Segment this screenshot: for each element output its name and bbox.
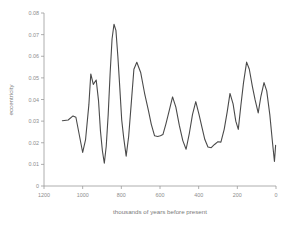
eccentricity-line-chart: 00.010.020.030.040.050.060.070.08 eccent… xyxy=(0,0,294,227)
y-tick-label: 0.08 xyxy=(29,10,40,16)
x-axis-title: thousands of years before present xyxy=(113,208,207,215)
chart-figure: 00.010.020.030.040.050.060.070.08 eccent… xyxy=(0,0,294,227)
x-tick-label: 1200 xyxy=(38,192,50,198)
y-tick-label: 0.02 xyxy=(29,140,40,146)
y-tick-label: 0.03 xyxy=(29,118,40,124)
x-tick-label: 200 xyxy=(233,192,242,198)
x-tick-label: 0 xyxy=(275,192,278,198)
y-tick-label: 0.01 xyxy=(29,161,40,167)
x-tick-label: 800 xyxy=(117,192,126,198)
y-tick-label: 0.04 xyxy=(29,97,40,103)
y-tick-label: 0.05 xyxy=(29,75,40,81)
x-tick-label: 600 xyxy=(156,192,165,198)
x-tick-label: 1000 xyxy=(77,192,89,198)
x-tick-label: 400 xyxy=(194,192,203,198)
y-tick-label: 0.07 xyxy=(29,32,40,38)
y-axis-title: eccentricity xyxy=(7,84,14,116)
y-tick-label: 0.06 xyxy=(29,53,40,59)
y-tick-label: 0 xyxy=(36,183,39,189)
